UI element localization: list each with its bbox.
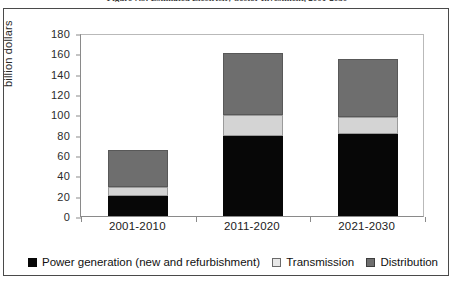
bar-segment-distribution[interactable]: [223, 53, 283, 115]
chart-legend: Power generation (new and refurbishment)…: [28, 253, 438, 271]
bar-segment-power[interactable]: [338, 134, 398, 216]
y-axis-tick-mark: [76, 197, 81, 198]
bar-segment-transmission[interactable]: [223, 115, 283, 135]
legend-swatch-icon: [366, 258, 375, 267]
plot-area: [80, 34, 424, 217]
legend-swatch-icon: [272, 258, 281, 267]
bar-segment-distribution[interactable]: [108, 150, 168, 187]
legend-item-label: Distribution: [380, 256, 438, 268]
y-axis-tick-mark: [76, 177, 81, 178]
x-axis-label-2001-2010: 2001-2010: [109, 220, 166, 232]
legend-item-transmission[interactable]: Transmission: [272, 256, 354, 268]
x-axis-label-2021-2030: 2021-2030: [338, 220, 395, 232]
bar-segment-power[interactable]: [223, 136, 283, 216]
x-axis-tick-mark: [310, 217, 311, 222]
y-axis-tick-mark: [76, 96, 81, 97]
figure-frame: billion dollars 180160140120100806040200…: [3, 8, 449, 276]
y-axis-tick-mark: [76, 157, 81, 158]
x-axis-tick-mark: [81, 217, 82, 222]
bar-segment-transmission[interactable]: [108, 187, 168, 196]
y-axis-tick-label: 60: [30, 150, 70, 162]
legend-item-distribution[interactable]: Distribution: [366, 256, 438, 268]
x-axis-label-2011-2020: 2011-2020: [224, 220, 280, 232]
figure-caption-text: Figure 7.5: Estimated Electricity Sector…: [107, 0, 348, 2]
bar-column-2011-2020[interactable]: [223, 33, 283, 216]
x-axis-tick-mark: [425, 217, 426, 222]
bar-column-2021-2030[interactable]: [338, 33, 398, 216]
y-axis-tick-label: 20: [30, 191, 70, 203]
y-axis-tick-label: 160: [30, 48, 70, 60]
bar-column-2001-2010[interactable]: [108, 33, 168, 216]
figure-caption: Figure 7.5: Estimated Electricity Sector…: [0, 0, 454, 2]
y-axis-tick-label: 120: [30, 89, 70, 101]
legend-swatch-icon: [28, 258, 37, 267]
y-axis-title: billion dollars: [2, 20, 14, 87]
y-axis-tick-label: 80: [30, 130, 70, 142]
bar-segment-transmission[interactable]: [338, 117, 398, 133]
x-axis-tick-mark: [196, 217, 197, 222]
y-axis-tick-mark: [76, 136, 81, 137]
y-axis-tick-label: 0: [30, 211, 70, 223]
y-axis-tick-mark: [76, 116, 81, 117]
y-axis-tick-label: 140: [30, 69, 70, 81]
y-axis-tick-mark: [76, 55, 81, 56]
bar-segment-power[interactable]: [108, 196, 168, 216]
y-axis-tick-label: 180: [30, 28, 70, 40]
bar-segment-distribution[interactable]: [338, 59, 398, 117]
legend-item-label: Transmission: [286, 256, 354, 268]
legend-item-label: Power generation (new and refurbishment): [42, 256, 260, 268]
y-axis-tick-mark: [76, 35, 81, 36]
legend-item-power[interactable]: Power generation (new and refurbishment): [28, 256, 260, 268]
y-axis-tick-mark: [76, 75, 81, 76]
y-axis-tick-label: 100: [30, 109, 70, 121]
y-axis-tick-label: 40: [30, 170, 70, 182]
